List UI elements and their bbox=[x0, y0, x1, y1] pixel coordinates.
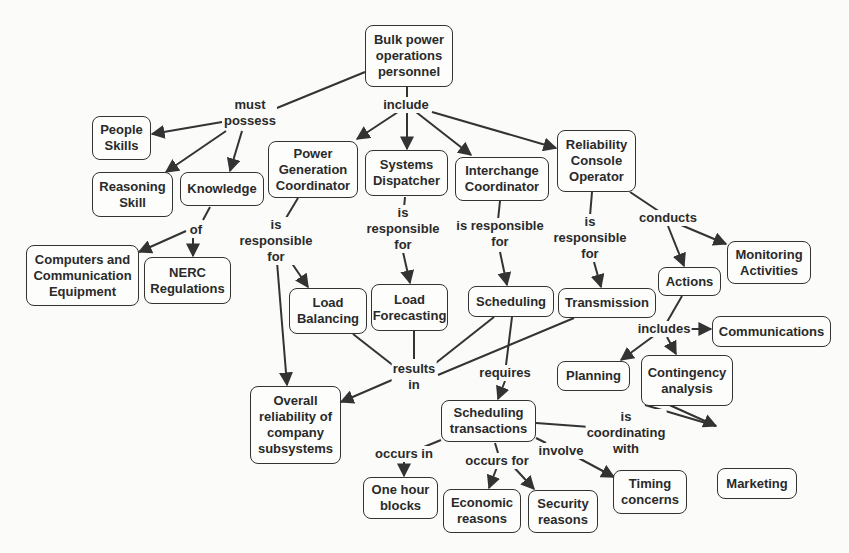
concept-node-text: Interchange Coordinator bbox=[465, 163, 539, 195]
link-label-results-in: results in bbox=[392, 361, 437, 393]
link-label-must-possess: must possess bbox=[223, 97, 277, 129]
line-connector bbox=[203, 207, 210, 220]
concept-node-scheduling[interactable]: Scheduling bbox=[468, 286, 554, 317]
link-label-requires: requires bbox=[478, 365, 531, 381]
line-connector bbox=[286, 198, 298, 218]
concept-node-monitoring[interactable]: Monitoring Activities bbox=[727, 241, 811, 284]
concept-node-people[interactable]: People Skills bbox=[92, 116, 151, 160]
line-connector bbox=[630, 192, 660, 212]
link-label-include: include bbox=[382, 97, 430, 113]
line-connector bbox=[272, 72, 365, 110]
concept-node-text: Load Forecasting bbox=[373, 292, 447, 324]
concept-node-text: Actions bbox=[666, 274, 714, 290]
line-connector bbox=[495, 443, 498, 453]
link-label-coordinating: is coordinating with bbox=[586, 409, 667, 457]
concept-node-text: Computers and Communication Equipment bbox=[33, 252, 131, 300]
arrow-connector bbox=[667, 337, 676, 354]
link-label-involve: involve bbox=[538, 443, 585, 459]
line-connector bbox=[536, 423, 590, 427]
line-connector bbox=[667, 296, 682, 322]
concept-node-timing[interactable]: Timing concerns bbox=[613, 470, 687, 514]
concept-node-schedtrans[interactable]: Scheduling transactions bbox=[441, 400, 536, 442]
concept-node-actions[interactable]: Actions bbox=[658, 267, 721, 296]
concept-node-text: NERC Regulations bbox=[150, 265, 224, 297]
concept-node-text: Reliability Console Operator bbox=[566, 137, 627, 185]
concept-node-loadbal[interactable]: Load Balancing bbox=[289, 288, 367, 334]
arrow-connector bbox=[498, 381, 505, 399]
concept-node-computers[interactable]: Computers and Communication Equipment bbox=[26, 245, 139, 306]
concept-node-text: Bulk power operations personnel bbox=[374, 32, 444, 80]
arrow-connector bbox=[500, 252, 507, 285]
link-label-ic-resp: is responsible for bbox=[455, 218, 544, 250]
link-label-includes: includes bbox=[637, 321, 692, 337]
concept-node-text: Systems Dispatcher bbox=[373, 157, 440, 189]
concept-node-pgc[interactable]: Power Generation Coordinator bbox=[268, 141, 358, 198]
concept-node-text: Monitoring Activities bbox=[735, 247, 802, 279]
link-label-occurs-in: occurs in bbox=[374, 446, 434, 462]
line-connector bbox=[506, 317, 512, 365]
concept-node-knowledge[interactable]: Knowledge bbox=[180, 172, 264, 206]
arrow-connector bbox=[357, 112, 398, 139]
arrow-connector bbox=[594, 262, 601, 287]
concept-node-text: Scheduling bbox=[476, 294, 546, 310]
concept-node-text: Planning bbox=[566, 368, 621, 384]
concept-node-security[interactable]: Security reasons bbox=[528, 490, 598, 533]
concept-node-text: Security reasons bbox=[537, 496, 588, 528]
concept-node-text: People Skills bbox=[100, 122, 143, 154]
arrow-connector bbox=[432, 112, 556, 148]
arrow-connector bbox=[489, 467, 497, 488]
link-label-rco-resp: is responsible for bbox=[553, 214, 628, 262]
concept-node-marketing[interactable]: Marketing bbox=[717, 468, 797, 499]
concept-node-text: Reasoning Skill bbox=[99, 179, 165, 211]
concept-node-contingency[interactable]: Contingency analysis bbox=[641, 355, 733, 406]
concept-node-reasoning[interactable]: Reasoning Skill bbox=[92, 172, 173, 217]
concept-node-overall[interactable]: Overall reliability of company subsystem… bbox=[250, 386, 341, 464]
link-label-sd-resp: is responsible for bbox=[366, 205, 441, 253]
arrow-connector bbox=[139, 231, 186, 252]
arrow-connector bbox=[665, 403, 716, 426]
arrow-connector bbox=[403, 252, 410, 283]
link-label-occurs-for: occurs for bbox=[464, 453, 530, 469]
concept-node-text: Marketing bbox=[726, 476, 787, 492]
concept-node-sysdisp[interactable]: Systems Dispatcher bbox=[365, 150, 448, 196]
concept-node-text: Knowledge bbox=[187, 181, 256, 197]
concept-node-interchange[interactable]: Interchange Coordinator bbox=[455, 157, 549, 201]
concept-node-economic[interactable]: Economic reasons bbox=[443, 489, 521, 533]
link-label-of: of bbox=[189, 222, 203, 238]
arrow-connector bbox=[166, 131, 226, 172]
concept-node-planning[interactable]: Planning bbox=[557, 361, 630, 391]
concept-node-text: Timing concerns bbox=[621, 476, 679, 508]
link-label-pgc-resp: is responsible for bbox=[239, 217, 314, 265]
concept-node-loadfc[interactable]: Load Forecasting bbox=[371, 284, 448, 331]
concept-node-text: Communications bbox=[719, 324, 824, 340]
concept-node-text: One hour blocks bbox=[372, 482, 430, 514]
concept-node-text: Overall reliability of company subsystem… bbox=[258, 393, 333, 457]
arrow-connector bbox=[291, 262, 308, 287]
concept-node-text: Economic reasons bbox=[451, 495, 513, 527]
concept-node-text: Power Generation Coordinator bbox=[276, 146, 350, 194]
concept-node-text: Scheduling transactions bbox=[450, 405, 527, 437]
line-connector bbox=[590, 192, 592, 216]
concept-node-bulk[interactable]: Bulk power operations personnel bbox=[365, 25, 453, 87]
concept-node-onehour[interactable]: One hour blocks bbox=[363, 477, 438, 519]
concept-node-text: Load Balancing bbox=[297, 295, 359, 327]
arrow-connector bbox=[277, 262, 287, 385]
concept-node-nerc[interactable]: NERC Regulations bbox=[144, 257, 231, 304]
concept-node-text: Contingency analysis bbox=[648, 365, 727, 397]
arrow-connector bbox=[230, 131, 242, 171]
concept-map-canvas: Bulk power operations personnelPeople Sk… bbox=[0, 0, 849, 553]
arrow-connector bbox=[668, 226, 684, 266]
concept-node-text: Transmission bbox=[565, 295, 649, 311]
arrow-connector bbox=[416, 112, 471, 155]
arrow-connector bbox=[341, 380, 392, 402]
concept-node-communications[interactable]: Communications bbox=[712, 316, 831, 347]
concept-node-transmission[interactable]: Transmission bbox=[558, 288, 656, 318]
link-label-conducts: conducts bbox=[638, 210, 698, 226]
arrow-connector bbox=[681, 225, 726, 244]
arrow-connector bbox=[152, 122, 222, 134]
concept-node-rco[interactable]: Reliability Console Operator bbox=[557, 130, 636, 192]
